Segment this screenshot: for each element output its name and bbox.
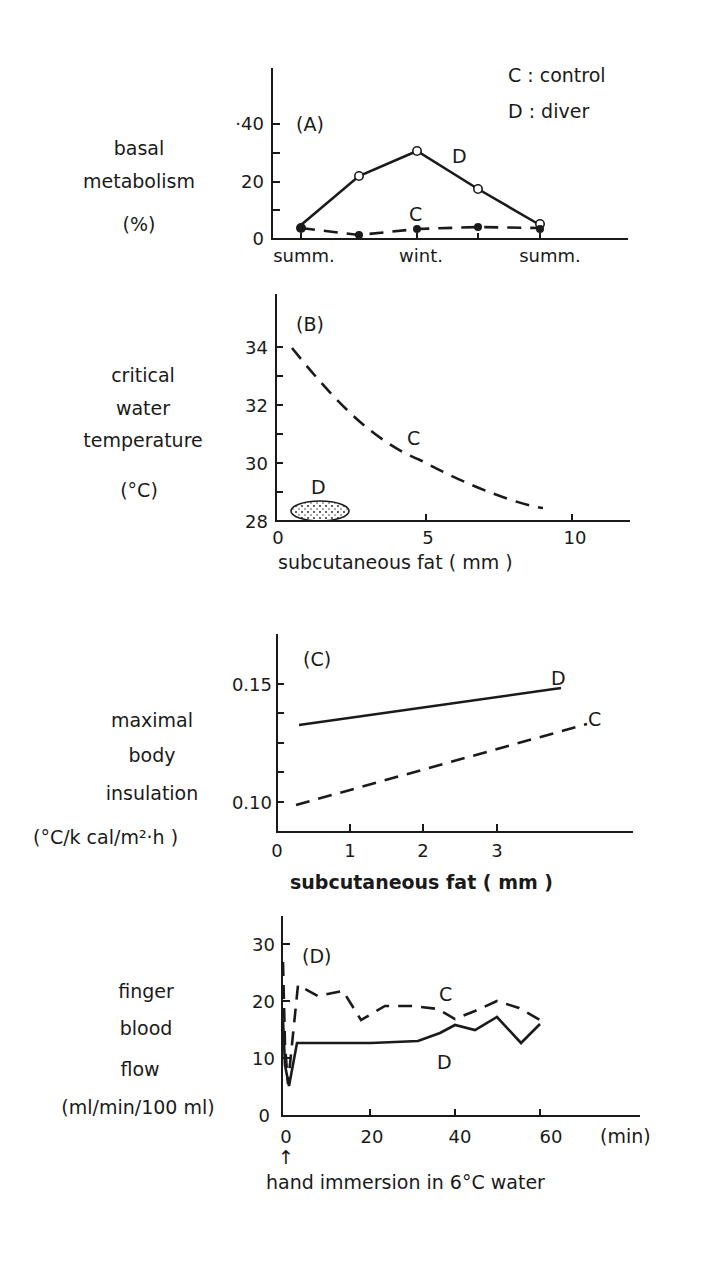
panel-c-series-control	[296, 724, 587, 805]
panel-d-xticks	[370, 1109, 540, 1116]
panel-c-ylabel-2: body	[129, 744, 176, 766]
panel-a-yticks	[272, 124, 280, 210]
legend-control: C : control	[508, 64, 606, 86]
panel-c-series-tag-c: C	[588, 708, 601, 730]
panel-c-xticks	[350, 824, 497, 832]
panel-c-series-diver	[299, 688, 561, 725]
panel-c-xtick-2: 2	[417, 840, 428, 861]
panel-c-yticks	[277, 684, 284, 802]
figure: C : control D : diver basal metabolism (…	[0, 0, 701, 1261]
panel-c-title: (C)	[303, 648, 331, 670]
panel-b-ylabel-2: water	[116, 397, 170, 419]
panel-d-ylabel-1: finger	[118, 980, 174, 1002]
panel-b-axes	[276, 294, 630, 521]
panel-c-ylabel-4: (°C/k cal/m²·h )	[33, 826, 178, 848]
panel-a-ylabel-3: (%)	[123, 213, 156, 235]
panel-d-ytick-20: 20	[252, 991, 275, 1012]
panel-b-xtick-5: 5	[422, 527, 433, 548]
panel-b-ylabel-1: critical	[111, 364, 175, 386]
legend-diver: D : diver	[508, 100, 589, 122]
panel-b-xticks	[426, 514, 572, 521]
panel-b-xtick-0: 0	[272, 527, 283, 548]
panel-a-ylabel-2: metabolism	[83, 170, 195, 192]
panel-a-ylabel-1: basal	[114, 137, 165, 159]
panel-c-ylabel-1: maximal	[111, 709, 193, 731]
panel-a-title: (A)	[296, 113, 324, 135]
panel-d-series-tag-d: D	[437, 1051, 452, 1073]
panel-d-ytick-10: 10	[252, 1048, 275, 1069]
panel-c-ytick-015: 0.15	[232, 674, 272, 695]
panel-d-series-diver	[283, 1017, 540, 1086]
panel-a-series-tag-c: C	[409, 203, 422, 225]
panel-b-ytick-34: 34	[245, 337, 268, 358]
panel-a-ytick-0: 0	[253, 228, 264, 249]
panel-b-ylabel-3: temperature	[83, 429, 202, 451]
panel-b-series-diver-region	[291, 501, 349, 521]
panel-d-ylabel-2: blood	[120, 1017, 173, 1039]
panel-b-ylabel-4: (°C)	[120, 479, 158, 501]
panel-d-xtick-40: 40	[449, 1126, 472, 1147]
panel-d-xlabel-unit: (min)	[600, 1125, 651, 1147]
panel-a-xtick-summer-1: summ.	[273, 245, 335, 266]
panel-c-ylabel-3: insulation	[106, 782, 199, 804]
panel-a-xtick-summer-2: summ.	[519, 245, 581, 266]
panel-c: maximal body insulation (°C/k cal/m²·h )…	[33, 634, 633, 893]
panel-a-diver-markers	[355, 147, 544, 228]
panel-b-ytick-32: 32	[245, 395, 268, 416]
panel-c-xtick-3: 3	[491, 840, 502, 861]
panel-c-xtick-0: 0	[271, 840, 282, 861]
panel-b-xtick-10: 10	[564, 527, 587, 548]
panel-b-yticks	[276, 347, 283, 492]
panel-c-series-tag-d: D	[551, 667, 566, 689]
panel-c-xtick-1: 1	[344, 840, 355, 861]
panel-d-ylabel-4: (ml/min/100 ml)	[61, 1096, 214, 1118]
arrow-up-icon: ↑	[278, 1146, 294, 1168]
panel-c-xlabel: subcutaneous fat ( mm )	[290, 871, 553, 893]
panel-a-series-tag-d: D	[452, 145, 467, 167]
panel-d-ylabel-3: flow	[120, 1058, 159, 1080]
panel-d: finger blood flow (ml/min/100 ml) (D) 30…	[61, 916, 650, 1193]
panel-d-title: (D)	[302, 945, 331, 967]
panel-d-annotation: hand immersion in 6°C water	[266, 1171, 545, 1193]
panel-b-series-tag-c: C	[407, 427, 420, 449]
panel-d-ytick-0: 0	[259, 1105, 270, 1126]
panel-a: basal metabolism (%) (A) ·40 20 0 summ. …	[83, 68, 628, 266]
panel-b-series-tag-d: D	[311, 476, 326, 498]
panel-b-ytick-28: 28	[245, 511, 268, 532]
panel-c-ytick-010: 0.10	[232, 792, 272, 813]
panel-d-axes	[282, 916, 640, 1116]
panel-d-ytick-30: 30	[252, 934, 275, 955]
panel-b-title: (B)	[296, 313, 324, 335]
panel-d-xtick-60: 60	[540, 1126, 563, 1147]
panel-a-ytick-20: 20	[241, 171, 264, 192]
panel-d-series-tag-c: C	[439, 983, 452, 1005]
panel-a-axes	[272, 68, 628, 239]
panel-b-ytick-30: 30	[245, 453, 268, 474]
panel-d-xtick-0: 0	[280, 1126, 291, 1147]
panel-b-xlabel: subcutaneous fat ( mm )	[278, 551, 513, 573]
panel-d-xtick-20: 20	[361, 1126, 384, 1147]
panel-b: critical water temperature (°C) (B) 34 3…	[83, 294, 630, 573]
panel-a-xtick-winter: wint.	[399, 245, 443, 266]
panel-a-ytick-40: ·40	[235, 113, 264, 134]
